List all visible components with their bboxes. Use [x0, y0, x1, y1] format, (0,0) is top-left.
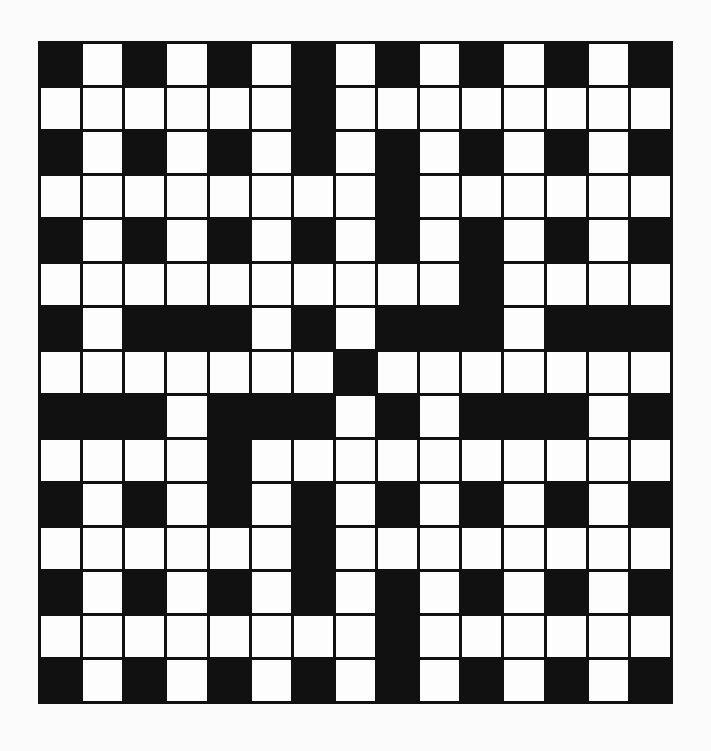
- white-square[interactable]: [252, 616, 291, 657]
- white-square[interactable]: [547, 528, 586, 569]
- white-square[interactable]: [631, 616, 670, 657]
- white-square[interactable]: [504, 176, 543, 217]
- white-square[interactable]: [252, 308, 291, 349]
- white-square[interactable]: [125, 176, 164, 217]
- white-square[interactable]: [589, 396, 628, 437]
- white-square[interactable]: [504, 528, 543, 569]
- white-square[interactable]: [336, 528, 375, 569]
- white-square[interactable]: [336, 440, 375, 481]
- white-square[interactable]: [167, 572, 206, 613]
- white-square[interactable]: [589, 440, 628, 481]
- white-square[interactable]: [294, 264, 333, 305]
- white-square[interactable]: [462, 616, 501, 657]
- white-square[interactable]: [504, 308, 543, 349]
- white-square[interactable]: [462, 176, 501, 217]
- white-square[interactable]: [336, 484, 375, 525]
- white-square[interactable]: [420, 616, 459, 657]
- white-square[interactable]: [504, 88, 543, 129]
- white-square[interactable]: [589, 484, 628, 525]
- white-square[interactable]: [210, 616, 249, 657]
- white-square[interactable]: [167, 220, 206, 261]
- white-square[interactable]: [83, 264, 122, 305]
- white-square[interactable]: [504, 352, 543, 393]
- white-square[interactable]: [83, 660, 122, 701]
- white-square[interactable]: [589, 572, 628, 613]
- white-square[interactable]: [83, 44, 122, 85]
- white-square[interactable]: [631, 176, 670, 217]
- white-square[interactable]: [589, 44, 628, 85]
- white-square[interactable]: [252, 264, 291, 305]
- white-square[interactable]: [420, 264, 459, 305]
- white-square[interactable]: [504, 44, 543, 85]
- white-square[interactable]: [504, 484, 543, 525]
- white-square[interactable]: [631, 88, 670, 129]
- white-square[interactable]: [420, 484, 459, 525]
- white-square[interactable]: [252, 528, 291, 569]
- white-square[interactable]: [378, 528, 417, 569]
- white-square[interactable]: [252, 132, 291, 173]
- white-square[interactable]: [252, 660, 291, 701]
- white-square[interactable]: [125, 616, 164, 657]
- white-square[interactable]: [378, 352, 417, 393]
- white-square[interactable]: [125, 88, 164, 129]
- white-square[interactable]: [252, 572, 291, 613]
- white-square[interactable]: [83, 572, 122, 613]
- white-square[interactable]: [336, 572, 375, 613]
- white-square[interactable]: [41, 88, 80, 129]
- white-square[interactable]: [547, 440, 586, 481]
- white-square[interactable]: [420, 660, 459, 701]
- white-square[interactable]: [83, 352, 122, 393]
- white-square[interactable]: [167, 88, 206, 129]
- white-square[interactable]: [420, 396, 459, 437]
- white-square[interactable]: [589, 264, 628, 305]
- white-square[interactable]: [336, 132, 375, 173]
- white-square[interactable]: [589, 616, 628, 657]
- white-square[interactable]: [167, 660, 206, 701]
- white-square[interactable]: [336, 88, 375, 129]
- white-square[interactable]: [294, 176, 333, 217]
- white-square[interactable]: [378, 88, 417, 129]
- white-square[interactable]: [420, 176, 459, 217]
- white-square[interactable]: [589, 176, 628, 217]
- white-square[interactable]: [547, 88, 586, 129]
- white-square[interactable]: [336, 616, 375, 657]
- white-square[interactable]: [210, 352, 249, 393]
- white-square[interactable]: [504, 220, 543, 261]
- white-square[interactable]: [252, 352, 291, 393]
- white-square[interactable]: [631, 528, 670, 569]
- white-square[interactable]: [504, 572, 543, 613]
- white-square[interactable]: [589, 88, 628, 129]
- white-square[interactable]: [420, 220, 459, 261]
- white-square[interactable]: [589, 132, 628, 173]
- white-square[interactable]: [167, 176, 206, 217]
- white-square[interactable]: [547, 352, 586, 393]
- white-square[interactable]: [125, 528, 164, 569]
- white-square[interactable]: [462, 352, 501, 393]
- white-square[interactable]: [167, 440, 206, 481]
- white-square[interactable]: [589, 220, 628, 261]
- white-square[interactable]: [210, 528, 249, 569]
- white-square[interactable]: [420, 440, 459, 481]
- white-square[interactable]: [83, 616, 122, 657]
- white-square[interactable]: [41, 616, 80, 657]
- white-square[interactable]: [167, 352, 206, 393]
- white-square[interactable]: [167, 528, 206, 569]
- white-square[interactable]: [83, 308, 122, 349]
- white-square[interactable]: [252, 176, 291, 217]
- white-square[interactable]: [378, 264, 417, 305]
- white-square[interactable]: [167, 484, 206, 525]
- white-square[interactable]: [336, 264, 375, 305]
- white-square[interactable]: [83, 132, 122, 173]
- white-square[interactable]: [167, 396, 206, 437]
- white-square[interactable]: [631, 352, 670, 393]
- white-square[interactable]: [252, 440, 291, 481]
- white-square[interactable]: [83, 528, 122, 569]
- white-square[interactable]: [631, 264, 670, 305]
- white-square[interactable]: [336, 220, 375, 261]
- white-square[interactable]: [83, 440, 122, 481]
- white-square[interactable]: [83, 484, 122, 525]
- white-square[interactable]: [41, 176, 80, 217]
- white-square[interactable]: [125, 264, 164, 305]
- white-square[interactable]: [631, 440, 670, 481]
- white-square[interactable]: [294, 440, 333, 481]
